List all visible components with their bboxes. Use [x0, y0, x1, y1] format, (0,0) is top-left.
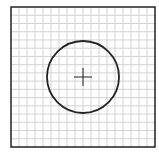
crosshair-icon: [74, 68, 92, 86]
grid-diagram: [0, 0, 159, 156]
